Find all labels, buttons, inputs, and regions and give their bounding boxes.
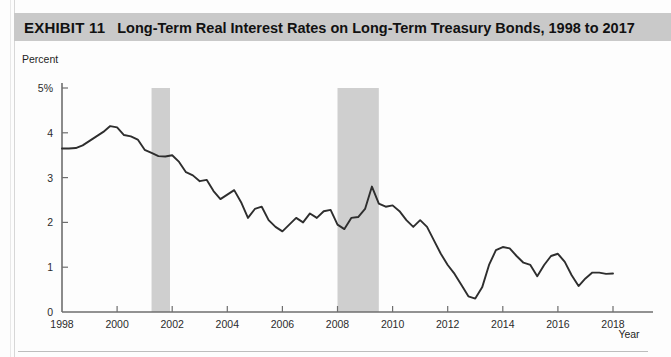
x-tick-label: 2000 [105, 318, 129, 330]
recession-2008-band [338, 88, 379, 312]
y-axis-label: Percent [22, 53, 58, 65]
x-tick-label: 2012 [436, 318, 460, 330]
exhibit-header-bar: EXHIBIT 11 Long-Term Real Interest Rates… [14, 13, 671, 41]
y-tick-label: 0 [47, 306, 53, 318]
x-tick-label: 2004 [216, 318, 240, 330]
y-tick-label: 5% [38, 82, 53, 94]
exhibit-header-inner: EXHIBIT 11 Long-Term Real Interest Rates… [14, 19, 635, 36]
y-tick-label: 4 [47, 127, 53, 139]
exhibit-figure: EXHIBIT 11 Long-Term Real Interest Rates… [0, 0, 671, 357]
x-tick-label: 2002 [161, 318, 185, 330]
chart-plot-area: 012345%199820002002200420062008201020122… [0, 41, 671, 357]
exhibit-title: Long-Term Real Interest Rates on Long-Te… [117, 20, 635, 36]
footer-rule [18, 351, 648, 352]
x-tick-label: 2014 [491, 318, 515, 330]
recession-2001-band [152, 88, 170, 312]
exhibit-number: EXHIBIT 11 [24, 19, 105, 36]
x-tick-label: 2008 [326, 318, 350, 330]
x-axis-label: Year [618, 328, 640, 340]
x-tick-label: 2016 [546, 318, 570, 330]
x-tick-label: 1998 [50, 318, 74, 330]
recession-bands [152, 88, 379, 312]
x-tick-label: 2006 [271, 318, 295, 330]
line-chart: 012345%199820002002200420062008201020122… [0, 41, 671, 357]
y-tick-label: 1 [47, 261, 53, 273]
y-tick-label: 2 [47, 216, 53, 228]
y-tick-label: 3 [47, 172, 53, 184]
chart-tick-labels: 012345%199820002002200420062008201020122… [38, 82, 625, 330]
x-tick-label: 2010 [381, 318, 405, 330]
